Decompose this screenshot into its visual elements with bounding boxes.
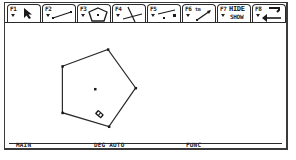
tab-f1-pointer[interactable]: F1 bbox=[7, 4, 41, 22]
toolbar: F1 F2 F3 F4 bbox=[5, 3, 286, 23]
tab-f8-undo[interactable]: F8 bbox=[252, 4, 286, 22]
vertex-point[interactable] bbox=[108, 126, 110, 128]
dropdown-arrow-icon bbox=[81, 14, 85, 17]
tab-f2-lines[interactable]: F2 bbox=[42, 4, 76, 22]
tab-f6-measure[interactable]: F6 tm bbox=[182, 4, 216, 22]
vertex-point[interactable] bbox=[135, 87, 137, 89]
undo-arrow-icon bbox=[261, 6, 283, 22]
point-on-segment-icon bbox=[156, 7, 178, 21]
dropdown-arrow-icon bbox=[256, 14, 260, 17]
show-label: SHOW bbox=[230, 13, 243, 21]
tab-f5-transformations[interactable]: F5 bbox=[147, 4, 181, 22]
dropdown-arrow-icon bbox=[46, 14, 50, 17]
status-divider bbox=[9, 143, 282, 144]
vertex-point[interactable] bbox=[61, 65, 63, 67]
status-folder: MAIN bbox=[16, 141, 31, 148]
dropdown-arrow-icon bbox=[186, 14, 190, 17]
dropdown-arrow-icon bbox=[11, 14, 15, 17]
perpendicular-lines-icon bbox=[121, 6, 143, 23]
tab-key-label: F6 bbox=[185, 5, 192, 12]
dropdown-arrow-icon bbox=[221, 14, 225, 17]
status-graph-mode: FUNC bbox=[186, 141, 201, 148]
pointer-arrow-icon bbox=[23, 7, 33, 20]
pencil-cursor-icon bbox=[95, 110, 104, 119]
dropdown-arrow-icon bbox=[151, 14, 155, 17]
vertex-point[interactable] bbox=[61, 112, 63, 114]
center-point[interactable] bbox=[94, 88, 96, 90]
polygon-icon bbox=[88, 7, 108, 22]
tab-key-label: F1 bbox=[10, 5, 17, 12]
geometry-canvas[interactable] bbox=[5, 23, 286, 144]
vertex-point[interactable] bbox=[107, 48, 109, 50]
measure-arrow-icon bbox=[195, 9, 213, 22]
hide-label: HIDE bbox=[229, 5, 245, 13]
calculator-screen: F1 F2 F3 F4 bbox=[4, 2, 288, 150]
dropdown-arrow-icon bbox=[116, 14, 120, 17]
tab-key-label: F7 bbox=[220, 5, 227, 12]
tab-f7-hide-show[interactable]: F7 HIDE SHOW bbox=[217, 4, 251, 22]
tab-f4-constructions[interactable]: F4 bbox=[112, 4, 146, 22]
status-angle-mode: DEG AUTO bbox=[94, 141, 125, 148]
line-segment-icon bbox=[51, 8, 73, 20]
tab-key-label: F3 bbox=[80, 5, 87, 12]
tab-f3-polygons[interactable]: F3 bbox=[77, 4, 111, 22]
